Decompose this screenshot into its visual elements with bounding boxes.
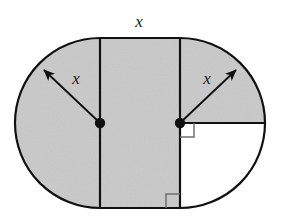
- unshaded-quarter-circle: [180, 123, 265, 208]
- left-center-dot: [95, 118, 105, 128]
- left-radius-label: x: [71, 69, 80, 88]
- geometry-figure-svg: x x x: [0, 0, 290, 220]
- right-center-dot: [175, 118, 185, 128]
- right-radius-label: x: [202, 69, 211, 88]
- top-width-label: x: [134, 12, 143, 31]
- geometry-figure-container: x x x: [0, 0, 290, 220]
